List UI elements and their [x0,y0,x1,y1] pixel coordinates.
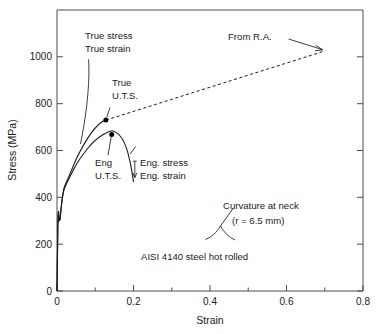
annotation-line: Curvature at neck [223,200,299,211]
annotation-eng-stress-strain: Eng. stress Eng. strain [140,157,188,181]
annotation-line: AISI 4140 steel hot rolled [141,251,248,262]
chart-background [0,0,387,334]
y-tick-label: 800 [35,98,52,109]
stress-strain-chart: 0 200 400 600 800 1000 0 0.2 0.4 0.6 0.8… [0,0,387,334]
annotation-line: Eng. strain [140,170,186,181]
x-tick-label: 0.8 [356,296,370,307]
annotation-line: True [112,77,131,88]
annotation-from-ra: From R.A. [228,31,272,42]
y-tick-label: 600 [35,145,52,156]
chart-canvas: 0 200 400 600 800 1000 0 0.2 0.4 0.6 0.8… [0,0,387,334]
y-tick-label: 0 [46,286,52,297]
true-uts-marker [103,118,108,123]
y-tick-label: 400 [35,192,52,203]
annotation-line: True strain [85,43,131,54]
annotation-line: U.T.S. [95,170,121,181]
annotation-line: Eng. stress [140,157,188,168]
y-tick-label: 1000 [30,51,53,62]
x-tick-label: 0.2 [127,296,141,307]
x-tick-label: 0.4 [203,296,217,307]
eng-uts-marker [109,132,114,137]
annotation-line: True stress [85,30,133,41]
y-axis-title: Stress (MPa) [6,119,18,180]
annotation-line: Eng [95,157,112,168]
annotation-line: From R.A. [228,31,272,42]
annotation-line: U.T.S. [112,90,138,101]
annotation-material-caption: AISI 4140 steel hot rolled [141,251,248,262]
y-tick-label: 200 [35,239,52,250]
x-tick-label: 0.6 [280,296,294,307]
annotation-line: (r = 6.5 mm) [232,215,285,226]
x-tick-label: 0 [54,296,60,307]
annotation-true-stress-strain: True stress True strain [85,30,133,54]
x-axis-title: Strain [196,314,224,326]
